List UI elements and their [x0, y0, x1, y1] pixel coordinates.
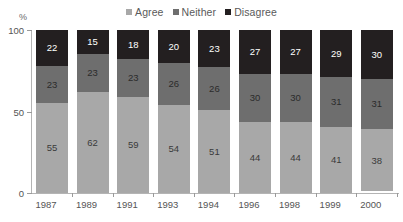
x-tick-mark-1998 [316, 193, 317, 197]
y-tick-label-0: 0 [0, 188, 24, 199]
x-tick-mark-1996 [275, 193, 276, 197]
bar-segment-agree-1991: 59 [117, 97, 149, 193]
y-tick-label-100: 100 [0, 25, 24, 36]
bar-segment-agree-1993: 54 [158, 105, 190, 193]
x-tick-mark-1999 [356, 193, 357, 197]
bar-segment-neither-1987: 23 [36, 66, 68, 103]
legend-swatch-agree [126, 9, 132, 15]
bar-1987: 222355 [36, 30, 68, 193]
bar-segment-neither-1991: 23 [117, 59, 149, 96]
bar-segment-agree-1989: 62 [77, 92, 109, 193]
bar-segment-neither-1999: 31 [320, 77, 352, 127]
legend-item-neither: Neither [173, 6, 217, 18]
x-tick-mark-2000 [397, 193, 398, 197]
bar-1993: 202654 [158, 30, 190, 193]
bar-segment-neither-1993: 26 [158, 63, 190, 105]
bar-1999: 293141 [320, 30, 352, 193]
x-tick-mark-1989 [113, 193, 114, 197]
bar-segment-disagree-1991: 18 [117, 30, 149, 59]
x-tick-mark-1993 [194, 193, 195, 197]
x-axis-labels: 198719891991199319941996199819992000 [31, 199, 399, 217]
x-tick-mark-1987 [72, 193, 73, 197]
x-axis-line [31, 193, 399, 194]
legend-item-agree: Agree [126, 6, 164, 18]
stacked-bar-chart: Agree Neither Disagree % 100 50 0 222355… [0, 0, 403, 222]
bar-segment-agree-1999: 41 [320, 127, 352, 193]
x-axis-label-1999: 1999 [308, 199, 352, 210]
bar-1998: 273044 [280, 30, 312, 193]
x-axis-label-1996: 1996 [227, 199, 271, 210]
bar-segment-disagree-2000: 30 [361, 30, 393, 79]
x-axis-label-1991: 1991 [105, 199, 149, 210]
bar-segment-disagree-1994: 23 [198, 30, 230, 67]
legend-label-neither: Neither [182, 6, 217, 18]
legend-label-disagree: Disagree [234, 6, 277, 18]
bar-1991: 182359 [117, 30, 149, 193]
x-axis-label-1998: 1998 [268, 199, 312, 210]
bar-segment-agree-2000: 38 [361, 129, 393, 191]
bar-segment-disagree-1989: 15 [77, 30, 109, 54]
bar-segment-disagree-1998: 27 [280, 30, 312, 74]
bar-segment-neither-2000: 31 [361, 79, 393, 130]
bar-segment-agree-1998: 44 [280, 122, 312, 193]
bar-segment-agree-1987: 55 [36, 103, 68, 193]
x-tick-mark-1994 [234, 193, 235, 197]
bar-segment-disagree-1996: 27 [239, 30, 271, 74]
bar-segment-neither-1994: 26 [198, 67, 230, 109]
y-tick-mark-0 [27, 193, 32, 194]
plot-area: 2223551523621823592026542326512730442730… [31, 30, 399, 193]
bar-segment-neither-1998: 30 [280, 74, 312, 122]
bar-segment-disagree-1993: 20 [158, 30, 190, 63]
bar-1989: 152362 [77, 30, 109, 193]
y-tick-label-50: 50 [0, 106, 24, 117]
bar-1994: 232651 [198, 30, 230, 193]
bar-1996: 273044 [239, 30, 271, 193]
x-axis-label-1989: 1989 [65, 199, 109, 210]
bar-segment-neither-1996: 30 [239, 74, 271, 122]
legend-label-agree: Agree [135, 6, 164, 18]
bar-segment-agree-1996: 44 [239, 122, 271, 193]
y-axis-unit-label: % [19, 12, 27, 22]
x-axis-label-1993: 1993 [146, 199, 190, 210]
bar-2000: 303138 [361, 30, 393, 193]
x-axis-label-1994: 1994 [186, 199, 230, 210]
chart-legend: Agree Neither Disagree [0, 6, 403, 18]
bar-segment-disagree-1999: 29 [320, 30, 352, 77]
legend-swatch-neither [173, 9, 179, 15]
bar-segment-disagree-1987: 22 [36, 30, 68, 66]
legend-item-disagree: Disagree [225, 6, 277, 18]
bar-segment-neither-1989: 23 [77, 54, 109, 91]
x-axis-label-1987: 1987 [24, 199, 68, 210]
bar-segment-agree-1994: 51 [198, 110, 230, 193]
legend-swatch-disagree [225, 9, 231, 15]
x-axis-label-2000: 2000 [349, 199, 393, 210]
x-tick-mark-1991 [153, 193, 154, 197]
